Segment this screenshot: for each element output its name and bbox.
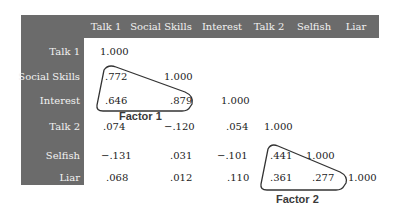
cell-interest-talk1: .646 [105,95,127,107]
cell-talk2-interest: .054 [226,121,248,133]
row-header-social-skills: Social Skills [18,71,80,83]
row-header-talk-2: Talk 2 [49,121,80,133]
cell-talk2-talk2: 1.000 [264,121,293,133]
column-header-interest: Interest [202,21,242,33]
cell-socialskills-talk1: .772 [105,71,127,83]
column-header-talk-1: Talk 1 [91,21,122,33]
cell-talk2-talk1: .074 [103,121,125,133]
row-header-selfish: Selfish [46,150,80,162]
cell-liar-talk1: .068 [106,172,128,184]
cell-liar-talk2: .361 [270,172,292,184]
column-header-talk-2: Talk 2 [254,21,285,33]
cell-liar-liar: 1.000 [348,172,377,184]
cell-liar-selfish: .277 [312,172,334,184]
cell-liar-interest: .110 [227,172,249,184]
cell-liar-socialskills: .012 [170,172,192,184]
column-header-liar: Liar [346,21,367,33]
row-header-liar: Liar [59,172,80,184]
cell-selfish-socialskills: .031 [170,150,192,162]
cell-selfish-talk2: .441 [270,150,292,162]
cell-interest-interest: 1.000 [221,95,250,107]
cell-socialskills-socialskills: 1.000 [164,71,193,83]
factor-1-label: Factor 1 [119,110,162,122]
column-header-social-skills: Social Skills [130,21,192,33]
cell-selfish-talk1: −.131 [101,150,132,162]
cell-interest-socialskills: .879 [170,95,192,107]
cell-talk1-talk1: 1.000 [100,46,129,58]
factor-2-label: Factor 2 [276,193,319,205]
row-header-interest: Interest [40,95,80,107]
row-header-talk-1: Talk 1 [49,46,80,58]
cell-selfish-interest: −.101 [217,150,248,162]
column-header-selfish: Selfish [297,21,331,33]
cell-selfish-selfish: 1.000 [306,150,335,162]
cell-talk2-socialskills: −.120 [164,121,195,133]
correlation-matrix: Talk 1 Social Skills Interest Talk 2 Sel… [0,0,396,213]
